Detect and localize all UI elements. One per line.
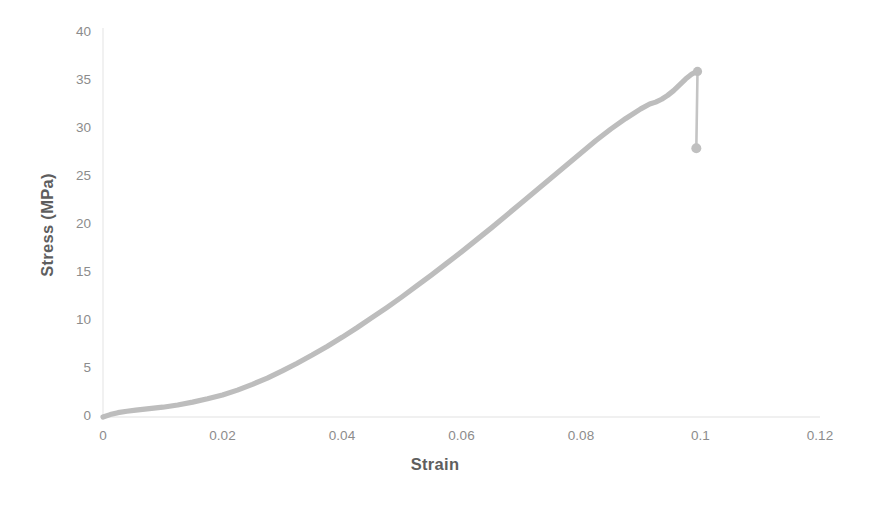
x-tick-label: 0.12 (785, 428, 855, 443)
y-axis-title: Stress (MPa) (38, 25, 57, 425)
data-series-group (103, 67, 702, 417)
y-tick-label: 15 (51, 264, 91, 279)
y-tick-label: 20 (51, 216, 91, 231)
x-tick-label: 0.04 (307, 428, 377, 443)
y-tick-label: 25 (51, 168, 91, 183)
stress-strain-chart: 0510152025303540 00.020.040.060.080.10.1… (0, 0, 870, 505)
x-tick-label: 0.02 (188, 428, 258, 443)
y-tick-label: 5 (51, 360, 91, 375)
y-tick-label: 10 (51, 312, 91, 327)
fracture-point-marker (691, 143, 701, 153)
stress-strain-curve (103, 71, 698, 417)
axis-lines (103, 28, 820, 417)
y-tick-label: 0 (51, 408, 91, 423)
x-tick-label: 0.06 (427, 428, 497, 443)
x-axis-title: Strain (0, 455, 870, 474)
y-tick-label: 40 (51, 24, 91, 39)
x-tick-label: 0 (68, 428, 138, 443)
x-tick-label: 0.08 (546, 428, 616, 443)
failure-drop-line (696, 71, 697, 148)
x-tick-label: 0.1 (666, 428, 736, 443)
peak-point-marker (693, 67, 702, 76)
y-tick-label: 30 (51, 120, 91, 135)
y-tick-label: 35 (51, 72, 91, 87)
